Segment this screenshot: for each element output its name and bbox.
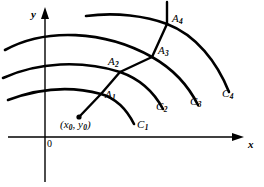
axes-group	[8, 7, 244, 182]
curve-C4-subscript: 4	[229, 92, 233, 101]
curve-C2-subscript: 2	[163, 105, 167, 114]
origin-label-text: 0	[47, 138, 52, 149]
node-label-A3: A3	[158, 44, 169, 58]
curve-C1-subscript: 1	[144, 123, 148, 132]
curve-label-C3: C3	[190, 95, 201, 109]
node-A1-subscript: 1	[112, 93, 116, 102]
y-axis-label-text: y	[31, 8, 36, 20]
start-point-label: (x0, y0)	[60, 118, 91, 132]
x-axis-label: x	[248, 138, 254, 150]
curve-C2	[3, 64, 163, 109]
start-point-close-paren: )	[87, 118, 91, 130]
x-axis-label-text: x	[248, 138, 254, 150]
x-axis-arrowhead	[232, 133, 244, 141]
curve-label-C2: C2	[156, 100, 167, 114]
y-axis-arrowhead	[41, 7, 49, 19]
node-label-A2: A2	[108, 55, 119, 69]
diagram-canvas: y x 0 A1 A2 A3 A4 C1 C2 C3 C4 (x0, y0)	[0, 0, 264, 187]
node-label-A1: A1	[105, 88, 116, 102]
y-axis-label: y	[31, 8, 36, 20]
node-A3-subscript: 3	[165, 49, 169, 58]
node-label-A4: A4	[172, 12, 183, 26]
node-A3-letter: A	[158, 44, 165, 56]
node-A2-letter: A	[108, 55, 115, 67]
curve-C3-subscript: 3	[197, 100, 201, 109]
segment-A2-A3	[120, 57, 152, 72]
origin-label: 0	[47, 138, 52, 149]
node-A1-letter: A	[105, 88, 112, 100]
curve-label-C4: C4	[222, 87, 233, 101]
node-A4-letter: A	[172, 12, 179, 24]
start-point-x-letter: x	[64, 118, 69, 130]
segment-start-A1	[79, 94, 101, 117]
curve-label-C1: C1	[137, 118, 148, 132]
node-A4-subscript: 4	[179, 17, 183, 26]
node-A2-subscript: 2	[115, 60, 119, 69]
